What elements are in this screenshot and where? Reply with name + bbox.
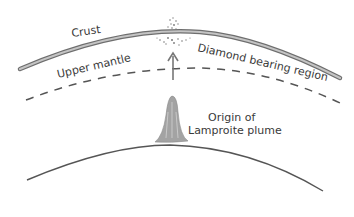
origin-label-line1: Origin of [208,111,256,124]
arrow-up-icon [168,53,178,80]
diagram-svg: Crust Upper mantle Diamond bearing regio… [0,0,354,217]
lamproite-diagram: Crust Upper mantle Diamond bearing regio… [0,0,354,217]
crust-label: Crust [71,23,102,40]
origin-label-line2: Lamproite plume [188,124,282,137]
lower-boundary-curve [27,145,323,191]
upper-mantle-label: Upper mantle [56,51,133,81]
